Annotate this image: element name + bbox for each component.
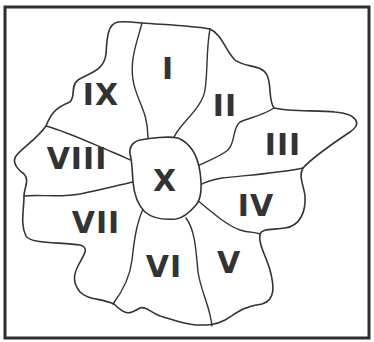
region-label-v: V xyxy=(217,245,241,280)
region-label-i: I xyxy=(162,51,174,86)
region-label-ii: II xyxy=(213,88,237,123)
region-diagram: I II III IV V VI VII VIII IX X xyxy=(0,0,374,342)
region-label-vii: VII xyxy=(72,205,121,240)
region-label-viii: VIII xyxy=(47,141,108,176)
region-label-ix: IX xyxy=(83,77,119,112)
region-label-vi: VI xyxy=(146,249,182,284)
region-label-iv: IV xyxy=(238,188,274,223)
region-label-iii: III xyxy=(265,127,302,162)
region-label-x: X xyxy=(153,163,177,198)
